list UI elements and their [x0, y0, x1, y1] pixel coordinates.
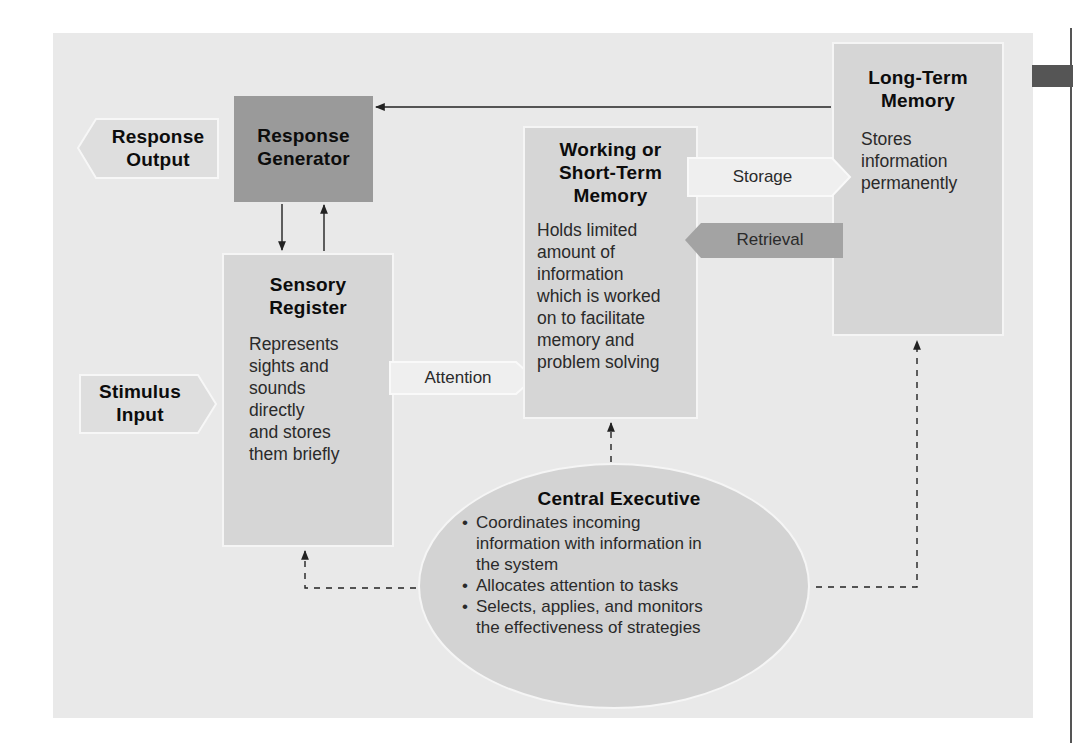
response-generator-box: Response Generator: [234, 96, 373, 202]
long-term-memory-box: Long-Term Memory Stores information perm…: [832, 42, 1004, 336]
long-term-memory-title: Long-Term Memory: [834, 66, 1002, 112]
stimulus-input-label: Stimulus Input: [80, 380, 200, 426]
sensory-register-title: Sensory Register: [224, 273, 392, 319]
sensory-register-box: Sensory Register Represents sights and s…: [222, 253, 394, 547]
working-memory-description: Holds limited amount of information whic…: [537, 219, 696, 373]
working-memory-title: Working or Short-Term Memory: [525, 138, 696, 207]
page-edge-tab: [1032, 65, 1073, 87]
long-term-memory-description: Stores information permanently: [861, 128, 1002, 194]
response-output-label: Response Output: [96, 125, 220, 171]
sensory-register-description: Represents sights and sounds directly an…: [249, 333, 392, 465]
bullet-item: Allocates attention to tasks: [460, 575, 805, 596]
bullet-item: Coordinates incoming information with in…: [460, 512, 805, 575]
central-executive-bullets: Coordinates incoming information with in…: [460, 512, 805, 638]
central-executive-title: Central Executive: [460, 487, 778, 510]
retrieval-label: Retrieval: [700, 222, 840, 258]
bullet-item: Selects, applies, and monitors the effec…: [460, 596, 805, 638]
response-generator-title: Response Generator: [236, 124, 371, 170]
working-memory-box: Working or Short-Term Memory Holds limit…: [523, 126, 698, 419]
attention-label: Attention: [392, 362, 524, 394]
storage-label: Storage: [690, 158, 835, 196]
page-edge-line: [1070, 28, 1072, 743]
